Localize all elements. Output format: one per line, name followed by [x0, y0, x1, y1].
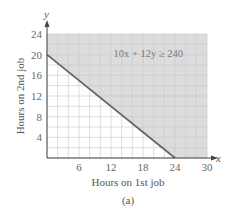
- svg-text:6: 6: [76, 161, 82, 173]
- figure-caption: (a): [122, 194, 135, 207]
- svg-text:20: 20: [31, 49, 43, 61]
- svg-text:24: 24: [31, 28, 43, 40]
- svg-text:12: 12: [106, 161, 117, 173]
- chart: 6121824304812162024 10x + 12y ≥ 240 Hour…: [0, 0, 240, 209]
- svg-text:8: 8: [37, 111, 43, 123]
- y-axis-label: Hours on 2nd job: [14, 57, 26, 134]
- x-axis-label: Hours on 1st job: [91, 176, 165, 188]
- inequality-annotation: 10x + 12y ≥ 240: [114, 48, 183, 59]
- svg-text:12: 12: [31, 90, 42, 102]
- svg-text:30: 30: [202, 161, 214, 173]
- y-axis-variable: y: [43, 8, 49, 20]
- x-axis-variable: x: [215, 152, 221, 164]
- svg-text:16: 16: [31, 69, 43, 81]
- svg-text:24: 24: [170, 161, 182, 173]
- svg-text:18: 18: [138, 161, 150, 173]
- svg-text:4: 4: [37, 131, 43, 143]
